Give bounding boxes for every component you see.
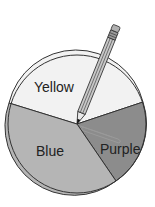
label-blue: Blue — [36, 143, 64, 159]
label-purple: Purple — [100, 141, 141, 157]
spinner-diagram: Yellow Blue Purple — [0, 0, 155, 207]
label-yellow: Yellow — [34, 79, 75, 95]
